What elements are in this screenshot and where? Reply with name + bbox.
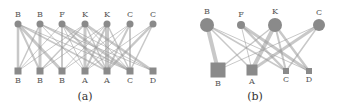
top-node <box>268 18 282 32</box>
bottom-node <box>82 68 89 75</box>
top-node-label: C <box>127 10 133 19</box>
top-node <box>82 21 89 28</box>
bottom-node <box>150 68 157 75</box>
top-node-label: F <box>59 10 65 19</box>
caption-a: (a) <box>77 90 92 103</box>
top-node-label: C <box>316 8 322 17</box>
top-node <box>200 18 214 32</box>
top-node-label: F <box>238 10 244 19</box>
top-node <box>150 21 157 28</box>
bottom-node <box>283 68 289 74</box>
bottom-node-label: C <box>283 75 289 84</box>
bottom-node <box>247 65 258 76</box>
top-node <box>237 21 245 29</box>
top-node <box>127 21 134 28</box>
top-node <box>59 21 66 28</box>
bottom-node-label: B <box>215 79 221 88</box>
top-node <box>15 21 22 28</box>
top-node-label: C <box>150 10 156 19</box>
bottom-node <box>37 68 44 75</box>
bottom-node-label: A <box>103 76 110 85</box>
top-node-label: B <box>15 10 21 19</box>
bipartite-graph-figure: BBFKKCCBBBAACD (a) BFKCBACD (b) <box>0 0 340 112</box>
panel-a: BBFKKCCBBBAACD (a) <box>15 10 157 104</box>
top-node-label: K <box>272 7 279 16</box>
top-node-label: B <box>37 10 43 19</box>
bottom-node <box>59 68 66 75</box>
bottom-node-label: B <box>37 76 43 85</box>
caption-b: (b) <box>247 90 263 103</box>
bottom-node <box>211 63 226 78</box>
bottom-node <box>127 68 134 75</box>
top-node <box>37 21 44 28</box>
edges-a <box>18 24 153 71</box>
bottom-node-label: C <box>127 76 133 85</box>
bottom-node-label: B <box>15 76 21 85</box>
panel-b: BFKCBACD (b) <box>200 7 325 103</box>
top-node-label: B <box>204 7 210 16</box>
bottom-node <box>104 68 111 75</box>
top-node <box>104 21 111 28</box>
top-node-label: K <box>82 10 89 19</box>
bottom-node <box>15 68 22 75</box>
bottom-node-label: D <box>150 76 156 85</box>
top-node <box>313 19 325 31</box>
bottom-node-label: B <box>59 76 65 85</box>
top-node-label: K <box>104 10 111 19</box>
bottom-node-label: D <box>306 75 312 84</box>
bottom-node-label: A <box>248 77 255 86</box>
bottom-node <box>306 68 312 74</box>
bottom-node-label: A <box>81 76 88 85</box>
